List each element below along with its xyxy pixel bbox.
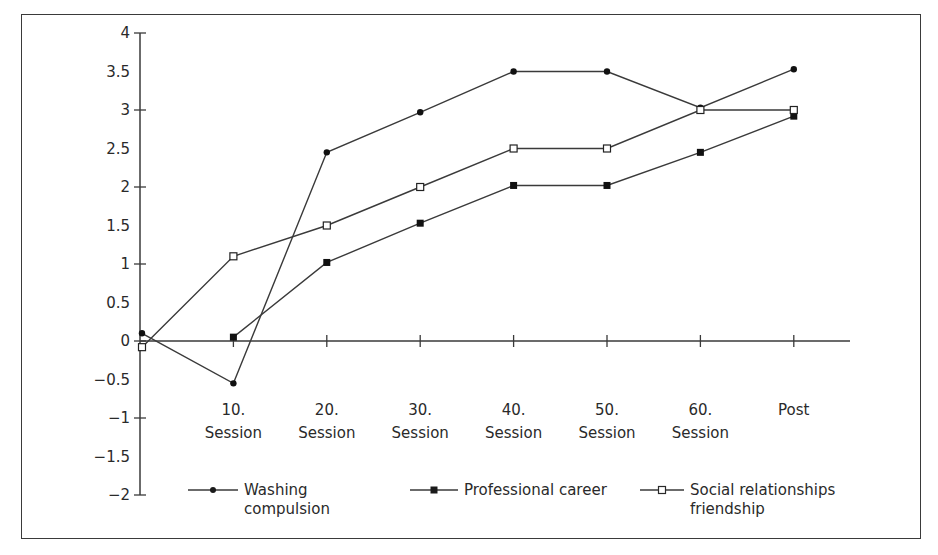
legend-label: Washing bbox=[244, 481, 330, 500]
x-tick-label: 50. bbox=[595, 401, 619, 419]
data-point bbox=[417, 109, 423, 115]
data-point bbox=[510, 182, 517, 189]
x-tick-label: Session bbox=[578, 424, 635, 442]
data-point bbox=[323, 222, 330, 229]
y-tick-label: 3 bbox=[120, 101, 130, 119]
line-chart: 43.532.521.510.50−0.5−1−1.5−210.Session2… bbox=[0, 0, 938, 555]
x-tick-label: Session bbox=[485, 424, 542, 442]
legend-label: friendship bbox=[690, 500, 835, 519]
data-point bbox=[697, 107, 704, 114]
data-point bbox=[604, 182, 611, 189]
x-tick-label: 60. bbox=[688, 401, 712, 419]
y-tick-label: 2 bbox=[120, 178, 130, 196]
x-tick-label: Post bbox=[778, 401, 810, 419]
data-point bbox=[604, 145, 611, 152]
legend-label: Professional career bbox=[464, 481, 607, 500]
y-tick-label: 0 bbox=[120, 332, 130, 350]
legend-item-professional: Professional career bbox=[410, 481, 607, 500]
data-point bbox=[230, 334, 237, 341]
x-tick-label: 10. bbox=[221, 401, 245, 419]
legend-item-washing: Washing compulsion bbox=[188, 481, 330, 519]
y-tick-label: −2 bbox=[108, 486, 130, 504]
data-point bbox=[139, 344, 146, 351]
data-point bbox=[510, 145, 517, 152]
data-point bbox=[139, 330, 145, 336]
x-tick-label: Session bbox=[392, 424, 449, 442]
x-tick-label: 20. bbox=[315, 401, 339, 419]
x-tick-label: Session bbox=[672, 424, 729, 442]
y-tick-label: −1.5 bbox=[94, 448, 130, 466]
y-tick-label: 2.5 bbox=[106, 140, 130, 158]
x-tick-label: 30. bbox=[408, 401, 432, 419]
data-point bbox=[604, 68, 610, 74]
filled-circle-marker-icon bbox=[188, 483, 238, 497]
filled-square-marker-icon bbox=[410, 483, 458, 497]
legend-item-social: Social relationships friendship bbox=[640, 481, 835, 519]
y-tick-label: 0.5 bbox=[106, 294, 130, 312]
y-tick-label: 1.5 bbox=[106, 217, 130, 235]
y-tick-label: 3.5 bbox=[106, 63, 130, 81]
x-tick-label: 40. bbox=[502, 401, 526, 419]
data-point bbox=[791, 66, 797, 72]
series-line bbox=[142, 69, 794, 383]
data-point bbox=[324, 149, 330, 155]
y-tick-label: −0.5 bbox=[94, 371, 130, 389]
x-tick-label: Session bbox=[205, 424, 262, 442]
data-point bbox=[790, 107, 797, 114]
data-point bbox=[510, 68, 516, 74]
data-point bbox=[230, 253, 237, 260]
y-tick-label: 1 bbox=[120, 255, 130, 273]
series-line bbox=[142, 110, 794, 347]
data-point bbox=[323, 259, 330, 266]
x-tick-label: Session bbox=[298, 424, 355, 442]
y-tick-label: 4 bbox=[120, 24, 130, 42]
y-tick-label: −1 bbox=[108, 409, 130, 427]
data-point bbox=[230, 380, 236, 386]
data-point bbox=[417, 184, 424, 191]
data-point bbox=[697, 149, 704, 156]
open-square-marker-icon bbox=[640, 483, 684, 497]
legend-label: compulsion bbox=[244, 500, 330, 519]
legend-label: Social relationships bbox=[690, 481, 835, 500]
data-point bbox=[417, 220, 424, 227]
